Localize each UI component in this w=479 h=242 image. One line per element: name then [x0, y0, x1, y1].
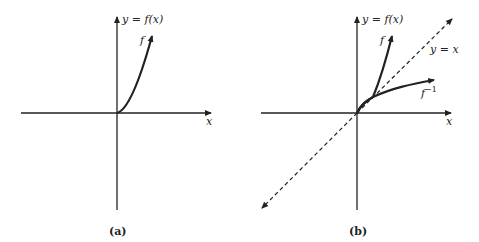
- y-axis-label: y = f(x): [121, 13, 163, 26]
- curve-f: [357, 36, 392, 113]
- x-axis-label: x: [206, 115, 213, 128]
- curve-f-label: f: [139, 34, 146, 47]
- caption-a: (a): [109, 225, 127, 238]
- curve-f: [117, 36, 152, 113]
- identity-line-lower: [262, 113, 357, 208]
- caption-b: (b): [349, 225, 367, 238]
- panel-b: y = f(x) x f f−1 y = x (b): [261, 13, 459, 238]
- curve-f-label: f: [379, 34, 386, 47]
- figure: y = f(x) x f (a) y = f(x) x f f−1 y = x …: [0, 0, 479, 242]
- identity-line-label: y = x: [429, 43, 459, 56]
- x-axis-label: x: [446, 115, 453, 128]
- panel-a: y = f(x) x f (a): [21, 13, 213, 238]
- curve-f-inverse-label: f−1: [420, 85, 437, 100]
- y-axis-label: y = f(x): [361, 13, 403, 26]
